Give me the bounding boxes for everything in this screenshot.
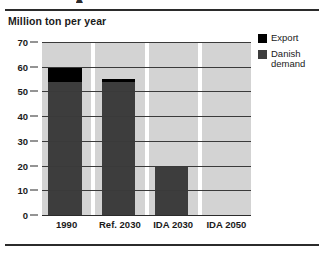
y-tick-label: 0 — [23, 210, 28, 221]
legend-item[interactable]: Export — [258, 33, 322, 44]
figure-container: ▴ Million ton per year 706050403020100 1… — [0, 0, 325, 255]
bar-ref-2030[interactable] — [102, 79, 135, 215]
y-tick-mark — [30, 42, 38, 43]
y-tick-label: 50 — [17, 86, 28, 97]
bar-1990[interactable] — [48, 67, 81, 215]
x-axis-labels: 1990Ref. 2030IDA 2030IDA 2050 — [42, 219, 251, 230]
y-tick-mark — [30, 116, 38, 117]
y-tick-mark — [30, 66, 38, 67]
plot-area — [42, 42, 251, 215]
legend-item[interactable]: Danish demand — [258, 49, 322, 70]
bar-segment-danish-demand — [102, 82, 135, 215]
category-panel — [202, 42, 251, 215]
chart-title: Million ton per year — [8, 15, 106, 27]
bar-segment-danish-demand — [155, 166, 188, 215]
y-tick-label: 70 — [17, 37, 28, 48]
x-tick-label: Ref. 2030 — [95, 219, 144, 230]
y-tick-mark — [30, 91, 38, 92]
category-panel — [42, 42, 91, 215]
top-divider — [5, 9, 319, 11]
gridline — [42, 215, 251, 216]
legend-item-label: Danish demand — [271, 49, 322, 70]
y-tick-mark — [30, 190, 38, 191]
x-tick-label: IDA 2030 — [149, 219, 198, 230]
y-tick-label: 40 — [17, 111, 28, 122]
x-tick-label: IDA 2050 — [202, 219, 251, 230]
bar-segment-danish-demand — [48, 82, 81, 215]
y-axis: 706050403020100 — [0, 42, 40, 215]
bar-segment-export — [48, 67, 81, 82]
y-tick-label: 10 — [17, 185, 28, 196]
bottom-divider — [5, 244, 319, 246]
y-tick-mark — [30, 140, 38, 141]
bar-ida-2030[interactable] — [155, 166, 188, 215]
y-tick-mark — [30, 215, 38, 216]
legend-item-label: Export — [271, 33, 298, 44]
category-panel — [95, 42, 144, 215]
y-tick-label: 30 — [17, 135, 28, 146]
legend-swatch-export — [258, 34, 267, 43]
y-tick-label: 20 — [17, 160, 28, 171]
y-tick-label: 60 — [17, 61, 28, 72]
x-tick-label: 1990 — [42, 219, 91, 230]
y-tick-mark — [30, 165, 38, 166]
cut-off-glyph: ▴ — [76, 0, 83, 3]
legend-swatch-danish-demand — [258, 50, 267, 59]
category-panels — [42, 42, 251, 215]
category-panel — [149, 42, 198, 215]
legend: ExportDanish demand — [258, 33, 322, 75]
